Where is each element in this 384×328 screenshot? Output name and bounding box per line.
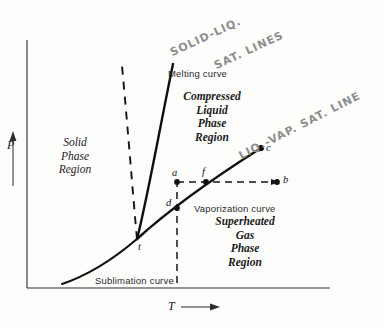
region-gas-line-1: Superheated xyxy=(196,215,294,229)
region-solid-phase: Solid Phase Region xyxy=(40,136,110,177)
region-solid-line-1: Solid xyxy=(40,136,110,150)
point-label-a: a xyxy=(172,167,177,179)
sublimation-curve-caption: Sublimation curve xyxy=(95,275,174,286)
point-dot-f xyxy=(203,179,209,185)
point-label-t: t xyxy=(138,241,141,253)
point-dot-a xyxy=(174,179,180,185)
x-axis-arrow xyxy=(181,304,220,311)
y-axis-label: P xyxy=(7,138,14,152)
region-gas-line-2: Gas xyxy=(196,229,294,243)
region-liquid-line-1: Compressed xyxy=(168,90,256,104)
region-liquid-line-4: Region xyxy=(168,131,256,145)
x-axis-label: T xyxy=(168,299,175,313)
phase-diagram-figure: P T Solid Phase Region Compressed Liquid… xyxy=(0,0,384,328)
region-compressed-liquid: Compressed Liquid Phase Region xyxy=(168,90,256,144)
point-dot-d xyxy=(174,205,180,211)
fusion-curve-dashed-path xyxy=(122,66,137,239)
region-gas-line-3: Phase xyxy=(196,242,294,256)
region-solid-line-3: Region xyxy=(40,163,110,177)
region-solid-line-2: Phase xyxy=(40,150,110,164)
point-label-b: b xyxy=(283,174,288,186)
region-liquid-line-3: Phase xyxy=(168,117,256,131)
region-gas-line-4: Region xyxy=(196,256,294,270)
region-superheated-gas: Superheated Gas Phase Region xyxy=(196,215,294,269)
point-label-f: f xyxy=(202,166,205,178)
region-liquid-line-2: Liquid xyxy=(168,104,256,118)
point-dot-b xyxy=(274,179,280,185)
point-label-d: d xyxy=(166,197,171,209)
vaporization-curve-caption: Vaporization curve xyxy=(194,203,276,214)
